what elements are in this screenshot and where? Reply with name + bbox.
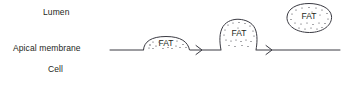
vesicle-stage-3-free: FAT: [287, 4, 332, 33]
figure-canvas: FAT: [0, 0, 344, 86]
vesicle-stage-1-dome: FAT: [144, 37, 190, 51]
label-lumen: Lumen: [43, 7, 70, 17]
vesicle-label-stage-3: FAT: [302, 11, 317, 21]
vesicle-label-stage-1: FAT: [159, 38, 174, 48]
label-apical-membrane: Apical membrane: [13, 43, 81, 53]
label-cell: Cell: [48, 64, 63, 74]
vesicle-label-stage-2: FAT: [232, 28, 247, 38]
vesicle-stage-2-budding: FAT: [220, 19, 257, 50]
